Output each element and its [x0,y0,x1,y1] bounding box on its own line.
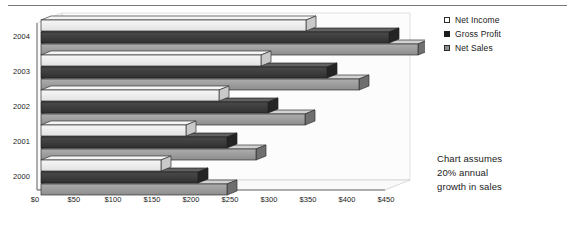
bar-2002-net-income [41,86,229,101]
chart-annotation: Chart assumes 20% annual growth in sales [437,152,572,194]
x-axis-tick-50: $50 [57,195,91,204]
chart-plot-area: 2004 2003 2002 2001 2000 $0 $50 $100 $15… [0,10,425,215]
legend-label-net-sales: Net Sales [455,43,493,53]
bar-2003-net-income [41,51,271,66]
legend-item-gross-profit: Gross Profit [444,28,569,41]
x-axis-tick-350: $350 [291,195,325,204]
y-axis-label-2004: 2004 [2,32,30,41]
legend-label-gross-profit: Gross Profit [455,29,501,39]
header-divider [8,5,567,6]
x-axis-tick-250: $250 [213,195,247,204]
x-axis-tick-300: $300 [252,195,286,204]
x-axis-tick-400: $400 [330,195,364,204]
x-axis-tick-450: $450 [369,195,403,204]
annotation-line-2: 20% annual [437,166,572,180]
chart-figure: 2004 2003 2002 2001 2000 $0 $50 $100 $15… [0,0,575,228]
y-axis-label-2002: 2002 [2,102,30,111]
legend-swatch-net-income-icon [444,17,450,23]
bar-chart-svg [0,10,425,215]
bar-2000-net-income [41,156,171,171]
bar-2001-net-income [41,121,196,136]
legend-item-net-sales: Net Sales [444,42,569,55]
chart-legend: Net Income Gross Profit Net Sales [444,14,569,56]
legend-label-net-income: Net Income [455,15,499,25]
bar-2004-net-income [41,16,316,31]
legend-swatch-gross-profit-icon [444,31,450,37]
annotation-line-3: growth in sales [437,180,572,194]
legend-item-net-income: Net Income [444,14,569,27]
annotation-line-1: Chart assumes [437,152,572,166]
legend-swatch-net-sales-icon [444,45,450,51]
x-axis-tick-100: $100 [96,195,130,204]
y-axis-label-2001: 2001 [2,137,30,146]
x-axis-tick-200: $200 [174,195,208,204]
x-axis-tick-150: $150 [135,195,169,204]
y-axis-label-2000: 2000 [2,172,30,181]
y-axis-label-2003: 2003 [2,67,30,76]
x-axis-tick-0: $0 [18,195,52,204]
